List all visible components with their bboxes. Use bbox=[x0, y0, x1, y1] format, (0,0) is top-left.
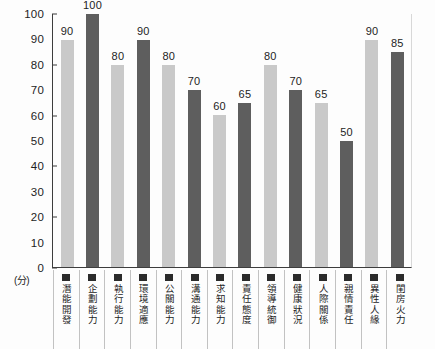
legend-item-label: 異性人緣 bbox=[369, 284, 379, 326]
bar bbox=[289, 90, 302, 267]
legend-item-label: 責任態度 bbox=[241, 284, 251, 326]
legend-swatch-icon bbox=[319, 274, 327, 281]
bar-value-label: 70 bbox=[188, 76, 201, 87]
bar bbox=[264, 65, 277, 267]
y-axis-tick-label: 50 bbox=[31, 135, 44, 147]
legend-item-label: 企劃能力 bbox=[87, 284, 97, 326]
bar-slot: 90 bbox=[131, 14, 156, 267]
bar bbox=[137, 40, 150, 267]
legend-item: 求知能力 bbox=[207, 270, 233, 349]
bar-value-label: 80 bbox=[264, 51, 277, 62]
legend-item: 領導統御 bbox=[258, 270, 284, 349]
bars-container: 90100809080706065807065509085 bbox=[54, 14, 410, 267]
bar-value-label: 80 bbox=[112, 51, 125, 62]
bar-slot: 90 bbox=[54, 14, 79, 267]
legend-item-label: 閨房火力 bbox=[395, 284, 405, 326]
legend-swatch-icon bbox=[396, 274, 404, 281]
bar-value-label: 65 bbox=[315, 89, 328, 100]
bar-value-label: 90 bbox=[137, 26, 150, 37]
bar-slot: 80 bbox=[156, 14, 181, 267]
bar-value-label: 90 bbox=[61, 26, 74, 37]
bar-slot: 70 bbox=[283, 14, 308, 267]
legend-swatch-icon bbox=[370, 274, 378, 281]
bar bbox=[111, 65, 124, 267]
legend-item: 閨房火力 bbox=[386, 270, 412, 349]
y-axis-tick-label: 90 bbox=[31, 33, 44, 45]
legend-item-label: 執行能力 bbox=[113, 284, 123, 326]
bar-value-label: 60 bbox=[213, 101, 226, 112]
bar bbox=[315, 103, 328, 267]
plot-area: 90100809080706065807065509085 bbox=[52, 14, 412, 268]
y-axis-tick-label: 100 bbox=[24, 8, 44, 20]
bar-slot: 70 bbox=[181, 14, 206, 267]
y-axis-tick-label: 20 bbox=[31, 211, 44, 223]
y-axis-tick-label: 40 bbox=[31, 160, 44, 172]
bar-slot: 65 bbox=[232, 14, 257, 267]
legend-swatch-icon bbox=[114, 274, 122, 281]
legend-item-label: 溝通能力 bbox=[189, 284, 199, 326]
bar-value-label: 100 bbox=[83, 0, 102, 11]
legend-item: 健康狀況 bbox=[284, 270, 310, 349]
legend-swatch-icon bbox=[344, 274, 352, 281]
bar-value-label: 90 bbox=[366, 26, 379, 37]
legend-item: 異性人緣 bbox=[361, 270, 387, 349]
bar-slot: 80 bbox=[258, 14, 283, 267]
legend-swatch-icon bbox=[191, 274, 199, 281]
legend-item-label: 人際關係 bbox=[318, 284, 328, 326]
bar-value-label: 65 bbox=[239, 89, 252, 100]
legend-swatch-icon bbox=[62, 274, 70, 281]
legend-item: 環境適應 bbox=[130, 270, 156, 349]
bar bbox=[213, 115, 226, 267]
bar bbox=[238, 103, 251, 267]
bar-slot: 80 bbox=[105, 14, 130, 267]
bar bbox=[365, 40, 378, 267]
legend-item: 企劃能力 bbox=[79, 270, 105, 349]
bar-slot: 65 bbox=[308, 14, 333, 267]
bar bbox=[86, 14, 99, 267]
bar-slot: 90 bbox=[359, 14, 384, 267]
legend-item: 公關能力 bbox=[156, 270, 182, 349]
bar bbox=[162, 65, 175, 267]
bar-value-label: 85 bbox=[391, 38, 404, 49]
bar-slot: 60 bbox=[207, 14, 232, 267]
legend-item-label: 領導統御 bbox=[266, 284, 276, 326]
category-legend: 潛能開發企劃能力執行能力環境適應公關能力溝通能力求知能力責任態度領導統御健康狀況… bbox=[53, 270, 412, 349]
y-axis-tick-label: 0 bbox=[37, 262, 44, 274]
legend-swatch-icon bbox=[267, 274, 275, 281]
bar-value-label: 70 bbox=[289, 76, 302, 87]
y-axis: 1009080706050403020100 bbox=[0, 14, 52, 268]
bar bbox=[61, 40, 74, 267]
legend-item-label: 公關能力 bbox=[164, 284, 174, 326]
legend-item-label: 求知能力 bbox=[215, 284, 225, 326]
legend-item: 溝通能力 bbox=[181, 270, 207, 349]
y-axis-tick-label: 80 bbox=[31, 59, 44, 71]
legend-swatch-icon bbox=[242, 274, 250, 281]
bar-slot: 50 bbox=[334, 14, 359, 267]
y-axis-tick-label: 60 bbox=[31, 110, 44, 122]
legend-swatch-icon bbox=[216, 274, 224, 281]
legend-swatch-icon bbox=[293, 274, 301, 281]
y-axis-tick-label: 30 bbox=[31, 186, 44, 198]
legend-item: 執行能力 bbox=[104, 270, 130, 349]
bar bbox=[188, 90, 201, 267]
legend-swatch-icon bbox=[88, 274, 96, 281]
legend-swatch-icon bbox=[139, 274, 147, 281]
y-axis-tick-label: 10 bbox=[31, 237, 44, 249]
bar-slot: 100 bbox=[80, 14, 105, 267]
legend-item: 潛能開發 bbox=[53, 270, 79, 349]
legend-item: 人際關係 bbox=[309, 270, 335, 349]
bar-value-label: 50 bbox=[340, 127, 353, 138]
legend-item-label: 環境適應 bbox=[138, 284, 148, 326]
bar-chart: 1009080706050403020100 (分) 9010080908070… bbox=[0, 0, 435, 349]
legend-swatch-icon bbox=[165, 274, 173, 281]
bar bbox=[391, 52, 404, 267]
legend-item-label: 潛能開發 bbox=[61, 284, 71, 326]
legend-item: 責任態度 bbox=[232, 270, 258, 349]
legend-item-label: 親情責任 bbox=[343, 284, 353, 326]
bar-slot: 85 bbox=[385, 14, 410, 267]
bar bbox=[340, 141, 353, 267]
legend-item-label: 健康狀況 bbox=[292, 284, 302, 326]
bar-value-label: 80 bbox=[162, 51, 175, 62]
y-axis-tick-label: 70 bbox=[31, 84, 44, 96]
y-axis-unit-label: (分) bbox=[14, 272, 29, 287]
